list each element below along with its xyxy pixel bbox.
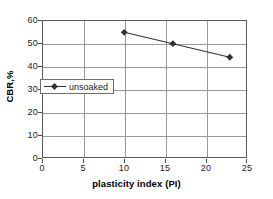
legend-label-unsoaked: unsoaked	[69, 82, 108, 92]
y-tick	[38, 20, 42, 21]
chart-figure: 60 50 40 30 20 10 0 0 5 10 15 20 25 plas…	[0, 0, 273, 199]
x-tick-label: 15	[150, 164, 180, 173]
series-marker	[169, 40, 176, 47]
x-axis-title: plasticity index (PI)	[0, 178, 273, 189]
chart-legend: unsoaked	[40, 79, 114, 94]
series-marker	[121, 29, 128, 36]
series-line	[124, 32, 230, 57]
x-tick-label: 10	[109, 164, 139, 173]
y-tick-label: 20	[16, 108, 38, 117]
y-tick-label: 50	[16, 39, 38, 48]
y-tick	[38, 43, 42, 44]
y-tick-label: 60	[16, 16, 38, 25]
x-tick-label: 0	[27, 164, 57, 173]
x-tick-label: 20	[191, 164, 221, 173]
x-tick-label: 25	[232, 164, 262, 173]
y-tick-label: 10	[16, 131, 38, 140]
y-tick-label: 40	[16, 62, 38, 71]
y-tick	[38, 135, 42, 136]
series-marker	[226, 54, 233, 61]
y-tick-label: 0	[16, 154, 38, 163]
x-tick-labels: 0 5 10 15 20 25	[0, 164, 273, 176]
y-tick	[38, 66, 42, 67]
y-axis-title: CBR,%	[4, 52, 15, 122]
y-tick-label: 30	[16, 85, 38, 94]
y-tick	[38, 112, 42, 113]
legend-marker-icon	[44, 82, 66, 91]
x-tick-label: 5	[68, 164, 98, 173]
